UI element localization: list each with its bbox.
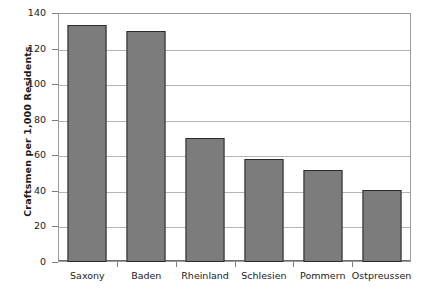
y-tick-label: 20 xyxy=(10,222,46,232)
y-tick-label: 140 xyxy=(10,8,46,18)
x-tick-mark xyxy=(293,262,294,267)
bar[interactable] xyxy=(303,170,342,262)
x-tick-mark xyxy=(117,262,118,267)
y-tick-label: 120 xyxy=(10,44,46,54)
bar-slot xyxy=(352,13,411,262)
bar-slot xyxy=(176,13,235,262)
x-tick-label: Pommern xyxy=(300,271,345,281)
bars-layer xyxy=(58,13,411,262)
x-tick-mark xyxy=(352,262,353,267)
y-tick-label: 100 xyxy=(10,79,46,89)
bar[interactable] xyxy=(244,159,283,262)
bar[interactable] xyxy=(127,31,166,262)
y-tick-label: 40 xyxy=(10,186,46,196)
y-axis-title: Craftsmen per 1,000 Residents xyxy=(22,27,33,237)
x-tick-label: Baden xyxy=(131,271,161,281)
x-tick-mark xyxy=(235,262,236,267)
bar[interactable] xyxy=(68,25,107,262)
bar-slot xyxy=(293,13,352,262)
x-tick-label: Schlesien xyxy=(241,271,286,281)
y-tick-label: 80 xyxy=(10,115,46,125)
x-tick-label: Rheinland xyxy=(181,271,229,281)
y-tick-label: 0 xyxy=(10,257,46,267)
bar-chart: Craftsmen per 1,000 Residents 0204060801… xyxy=(0,0,421,295)
bar-slot xyxy=(235,13,294,262)
y-tick-mark xyxy=(52,262,58,263)
x-tick-label: Ostpreussen xyxy=(352,271,412,281)
bar[interactable] xyxy=(186,138,225,263)
x-tick-mark xyxy=(176,262,177,267)
y-tick-label: 60 xyxy=(10,151,46,161)
bar-slot xyxy=(58,13,117,262)
x-tick-label: Saxony xyxy=(70,271,105,281)
bar[interactable] xyxy=(362,190,401,262)
bar-slot xyxy=(117,13,176,262)
